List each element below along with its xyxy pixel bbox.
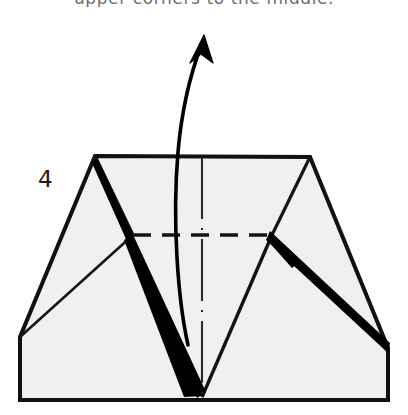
- paper-outline: [20, 156, 388, 400]
- arrow-head-icon: [190, 35, 213, 63]
- diagram-page: upper corners to the middle. origami-fol…: [0, 0, 408, 415]
- step-number-label: 4: [38, 168, 53, 191]
- origami-figure: origami-fold-step-4: [0, 0, 408, 415]
